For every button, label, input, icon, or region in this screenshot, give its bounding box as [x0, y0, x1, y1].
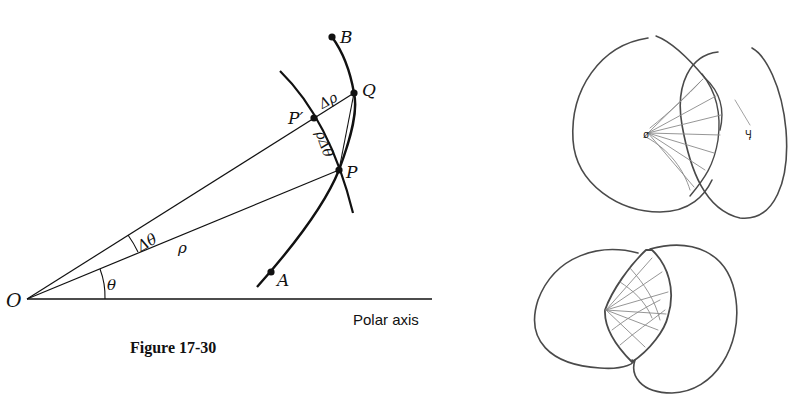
- axis-label: Polar axis: [353, 311, 419, 328]
- figure-canvas: O A B Q P′ P θ Δθ ρ Δρ ρΔθ Polar axis Fi…: [0, 0, 802, 399]
- theta-arc: [100, 269, 105, 299]
- point-q: [350, 89, 357, 96]
- label-delta-rho: Δρ: [315, 88, 340, 112]
- point-b: [328, 33, 335, 40]
- label-p: P: [345, 162, 358, 182]
- sketch-top-left-lobe: [573, 38, 712, 212]
- point-p-prime: [310, 114, 317, 121]
- sketch-top-right-lobe: [680, 48, 786, 218]
- label-theta: θ: [107, 276, 116, 294]
- label-q: Q: [362, 80, 376, 100]
- label-rho: ρ: [177, 239, 187, 257]
- point-a: [267, 268, 274, 275]
- label-a: A: [275, 270, 289, 290]
- figure-caption: Figure 17-30: [130, 339, 216, 357]
- sketch-top-mark-left: ø: [643, 129, 649, 140]
- sketch-top-mark-right: Ӌ: [745, 129, 752, 140]
- label-rho-delta-theta: ρΔθ: [312, 128, 337, 160]
- sketch-bottom: [535, 245, 737, 393]
- sketch-bottom-right-lobe: [634, 245, 737, 393]
- label-o: O: [6, 289, 22, 311]
- sketch-top: ø Ӌ: [573, 36, 787, 218]
- label-delta-theta: Δθ: [133, 230, 160, 256]
- ray-o-to-p: [27, 170, 339, 299]
- point-p: [335, 166, 342, 173]
- sketch-bottom-radial-lines: [606, 258, 668, 347]
- ray-o-to-q: [27, 93, 354, 299]
- label-b: B: [339, 27, 353, 47]
- label-p-prime: P′: [287, 108, 303, 128]
- polar-diagram: O A B Q P′ P θ Δθ ρ Δρ ρΔθ Polar axis Fi…: [6, 27, 432, 357]
- sketch-bottom-lens: [605, 250, 671, 362]
